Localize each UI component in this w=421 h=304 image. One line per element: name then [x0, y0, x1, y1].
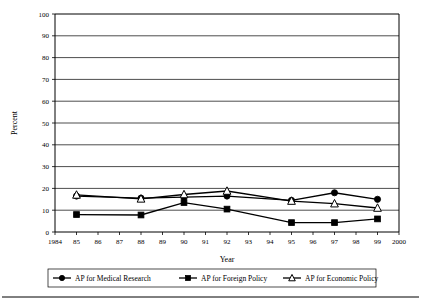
data-point-marker-filled-square: [289, 220, 295, 226]
x-tick-label: 98: [353, 238, 361, 246]
data-point-marker-filled-square: [186, 276, 191, 281]
x-tick-label: 92: [224, 238, 232, 246]
legend: AP for Medical ResearchAP for Foreign Po…: [53, 274, 379, 283]
y-tick-label: 80: [42, 54, 50, 62]
y-tick-label: 60: [42, 98, 50, 106]
x-tick-label: 86: [95, 238, 103, 246]
data-point-marker-filled-square: [181, 200, 187, 206]
data-point-marker-filled-circle: [331, 190, 337, 196]
x-tick-label: 85: [73, 238, 81, 246]
data-point-marker-filled-circle: [374, 196, 380, 202]
x-tick-label: 88: [138, 238, 146, 246]
y-tick-label: 0: [46, 229, 50, 237]
data-point-marker-filled-square: [138, 212, 144, 218]
y-axis-title: Percent: [10, 110, 19, 135]
x-axis-title: Year: [220, 255, 235, 264]
legend-label: AP for Medical Research: [75, 274, 151, 283]
x-tick-label: 95: [288, 238, 296, 246]
data-point-marker-filled-square: [332, 220, 338, 226]
x-tick-label: 1984: [48, 238, 63, 246]
line-chart-figure: 0102030405060708090100 19848586878889909…: [0, 0, 421, 304]
data-point-marker-filled-square: [224, 206, 230, 212]
data-point-marker-filled-circle: [59, 275, 64, 280]
data-point-marker-filled-square: [74, 212, 80, 218]
x-tick-label: 94: [267, 238, 275, 246]
y-tick-label: 10: [42, 207, 50, 215]
y-tick-label: 70: [42, 76, 50, 84]
y-tick-label: 40: [42, 141, 50, 149]
data-point-marker-filled-square: [375, 216, 381, 222]
x-axis: 19848586878889909192939495969798992000: [48, 232, 407, 246]
x-tick-label: 99: [374, 238, 382, 246]
x-tick-label: 91: [202, 238, 210, 246]
y-tick-label: 90: [42, 32, 50, 40]
y-tick-label: 100: [39, 11, 50, 19]
x-tick-label: 96: [310, 238, 318, 246]
x-tick-label: 2000: [392, 238, 407, 246]
x-tick-label: 89: [159, 238, 167, 246]
y-tick-label: 20: [42, 185, 50, 193]
x-tick-label: 97: [331, 238, 339, 246]
x-tick-label: 90: [181, 238, 189, 246]
y-tick-label: 30: [42, 163, 50, 171]
y-tick-label: 50: [42, 120, 50, 128]
legend-label: AP for Economic Policy: [305, 274, 379, 283]
x-tick-label: 87: [116, 238, 124, 246]
legend-label: AP for Foreign Policy: [201, 274, 267, 283]
x-tick-label: 93: [245, 238, 253, 246]
